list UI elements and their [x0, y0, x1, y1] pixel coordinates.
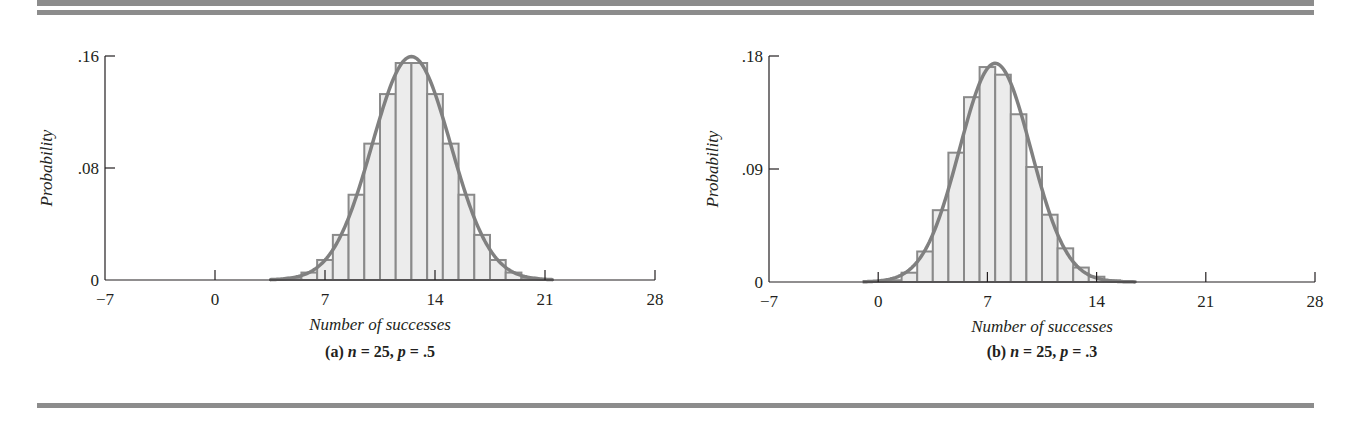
histogram-bar	[1011, 114, 1027, 282]
histogram-bar	[490, 260, 506, 280]
histogram-bars	[870, 67, 1135, 282]
histogram-bar	[427, 94, 443, 280]
x-tick-label: 14	[427, 290, 445, 309]
histogram-bar	[396, 63, 412, 280]
histogram-bar	[933, 210, 949, 282]
figure-canvas: −7071421280.08.16Number of successesProb…	[0, 0, 1349, 426]
y-tick-label: .16	[78, 47, 99, 66]
x-tick-label: −7	[96, 290, 115, 309]
histogram-bar	[474, 235, 490, 280]
x-tick-label: 14	[1088, 292, 1106, 311]
histogram-bar	[411, 63, 427, 280]
y-tick-label: .18	[742, 47, 763, 66]
chart-b-binomial-n25-p03: −7071421280.09.18Number of successesProb…	[703, 47, 1324, 361]
x-axis-title: Number of successes	[970, 317, 1113, 336]
x-tick-label: 28	[1307, 292, 1324, 311]
histogram-bar	[980, 67, 996, 282]
chart-caption: (a) n = 25, p = .5	[325, 343, 435, 361]
x-tick-label: 21	[1197, 292, 1214, 311]
x-tick-label: 0	[874, 292, 883, 311]
x-tick-label: 7	[983, 292, 992, 311]
chart-caption: (b) n = 25, p = .3	[987, 343, 1098, 361]
x-tick-label: 28	[647, 290, 664, 309]
histogram-bars	[270, 63, 553, 280]
histogram-bar	[995, 75, 1011, 282]
y-axis-title: Probability	[703, 130, 722, 208]
y-axis-title: Probability	[37, 129, 56, 207]
x-tick-label: 21	[537, 290, 554, 309]
x-tick-label: 7	[321, 290, 330, 309]
chart-a-binomial-n25-p05: −7071421280.08.16Number of successesProb…	[37, 47, 664, 361]
histogram-bar	[380, 94, 396, 280]
y-tick-label: 0	[91, 271, 100, 290]
histogram-bar	[948, 153, 964, 282]
x-tick-label: −7	[760, 292, 779, 311]
y-tick-label: .09	[742, 160, 763, 179]
x-axis-title: Number of successes	[308, 315, 451, 334]
histogram-bar	[333, 235, 349, 280]
x-tick-label: 0	[211, 290, 220, 309]
y-tick-label: .08	[78, 159, 99, 178]
y-tick-label: 0	[755, 273, 764, 292]
